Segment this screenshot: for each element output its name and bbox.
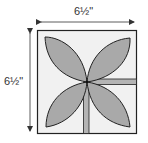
quilt-block-diagram [0, 0, 148, 143]
flower-center [86, 81, 89, 84]
